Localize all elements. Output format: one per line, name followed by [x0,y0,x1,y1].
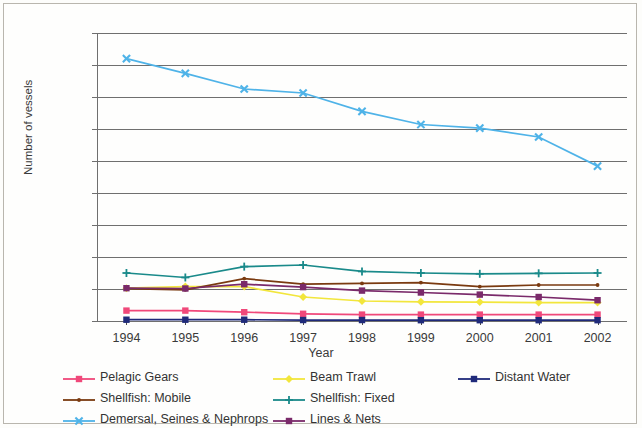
x-tick-label: 2002 [568,331,628,345]
data-point-plus [594,269,602,277]
legend-swatch [457,371,491,383]
data-point-diamond [285,375,293,383]
x-tick-label: 1996 [214,331,274,345]
x-tick-label: 2000 [450,331,510,345]
series-pelagic-gears [123,307,601,317]
chart-figure: Number of vessels Year 18001600140012001… [0,0,642,428]
data-point-plus [240,263,248,271]
legend-swatch [62,392,96,404]
x-tick-label: 1995 [155,331,215,345]
data-point-square [477,311,483,317]
data-point-diamond [417,298,425,306]
data-point-square [300,284,306,290]
series-layer [97,33,627,321]
legend-item[interactable]: Shellfish: Fixed [272,387,457,408]
data-point-square [123,307,129,313]
data-point-dot [360,282,364,286]
x-tick-label: 1994 [96,331,156,345]
data-point-diamond [476,298,484,306]
x-tick-label: 1999 [391,331,451,345]
data-point-square [182,307,188,313]
legend-label: Lines & Nets [310,412,381,426]
data-point-square [76,375,82,381]
x-tick-label: 1998 [332,331,392,345]
data-point-square [477,291,483,297]
plot-area: 1800160014001200100080060040020001994199… [97,33,627,321]
data-point-square [594,297,600,303]
data-point-plus [181,273,189,281]
legend-swatch [62,413,96,425]
legend-column: Pelagic GearsShellfish: MobileDemersal, … [62,366,272,428]
data-point-plus [476,270,484,278]
data-point-dot [537,283,541,287]
data-point-square [359,317,365,323]
legend-column: Beam TrawlShellfish: FixedLines & Nets [272,366,457,428]
data-point-square [241,317,247,323]
data-point-square [241,281,247,287]
series-shellfish-fixed [122,261,601,281]
data-point-plus [358,267,366,275]
data-point-square [594,311,600,317]
legend-item[interactable]: Demersal, Seines & Nephrops [62,408,272,428]
legend-label: Beam Trawl [310,370,376,384]
data-point-square [535,317,541,323]
data-point-square [300,311,306,317]
legend-item[interactable]: Pelagic Gears [62,366,272,387]
data-point-plus [122,269,130,277]
data-point-square [286,417,292,423]
y-axis-label: Number of vessels [22,80,34,175]
data-point-dot [596,283,600,287]
chart-legend: Pelagic GearsShellfish: MobileDemersal, … [62,366,622,428]
data-point-plus [299,261,307,269]
data-point-square [535,311,541,317]
data-point-square [477,317,483,323]
legend-item[interactable]: Lines & Nets [272,408,457,428]
data-point-cross [594,163,601,170]
legend-label: Shellfish: Fixed [310,391,395,405]
data-point-diamond [358,297,366,305]
legend-label: Demersal, Seines & Nephrops [100,412,268,426]
legend-label: Distant Water [495,370,570,384]
data-point-square [471,375,477,381]
legend-item[interactable]: Shellfish: Mobile [62,387,272,408]
data-point-plus [535,269,543,277]
data-point-dot [478,285,482,289]
data-point-square [594,317,600,323]
data-point-square [182,285,188,291]
legend-label: Shellfish: Mobile [100,391,191,405]
legend-column: Distant Water [457,366,617,428]
legend-item[interactable]: Distant Water [457,366,617,387]
data-point-square [359,287,365,293]
series-beam-trawl [122,283,601,307]
data-point-dot [77,398,81,402]
x-axis-label: Year [0,346,642,360]
data-point-square [418,311,424,317]
legend-swatch [62,371,96,383]
legend-swatch [272,392,306,404]
data-point-square [123,285,129,291]
data-point-plus [285,396,293,404]
series-demersal-seines-nephrops [123,55,601,170]
data-point-square [241,309,247,315]
legend-label: Pelagic Gears [100,370,179,384]
legend-item[interactable]: Beam Trawl [272,366,457,387]
legend-swatch [272,371,306,383]
data-point-dot [419,281,423,285]
x-tick-label: 1997 [273,331,333,345]
x-tick-label: 2001 [509,331,569,345]
data-point-diamond [299,293,307,301]
data-point-square [300,317,306,323]
data-point-square [418,289,424,295]
data-point-plus [417,269,425,277]
data-point-dot [242,277,246,281]
data-point-square [182,317,188,323]
data-point-square [418,317,424,323]
data-point-square [535,294,541,300]
legend-swatch [272,413,306,425]
y-tick-mark [92,321,97,322]
data-point-square [123,317,129,323]
